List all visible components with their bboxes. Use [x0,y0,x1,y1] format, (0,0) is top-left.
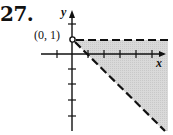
point-label: (0, 1) [34,28,60,42]
inequality-graph: (0, 1) y x [0,0,173,135]
open-point-marker [70,37,75,42]
y-axis-label: y [59,5,67,19]
x-axis-label: x [155,56,162,70]
y-axis-arrow-icon [69,10,75,18]
